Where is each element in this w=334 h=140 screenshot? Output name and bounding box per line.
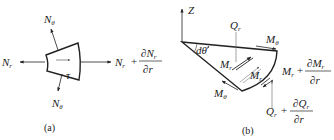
mr-frac-numerator: ∂Mr (307, 57, 325, 71)
ntheta-bottom-arrow (58, 74, 62, 91)
qr-bottom-label: Qr (266, 105, 277, 119)
panel-b: Z dθ Qr Mθ Mr Mr Mθ Mr + ∂Mr ∂r (182, 4, 331, 137)
ntheta-top-label: Nθ (43, 13, 55, 27)
angle-arrow (207, 46, 209, 49)
mr-plus: + (297, 64, 303, 76)
angle-label: dθ (196, 44, 208, 56)
qr-frac-denominator: ∂r (294, 113, 304, 125)
ntheta-top-arrow (51, 29, 58, 50)
nr-left-label: Nr (1, 56, 12, 70)
nr-plus: + (131, 55, 137, 67)
qr-frac-numerator: ∂Qr (293, 97, 309, 111)
shell-element-force-diagram: Nr Nθ Nθ τ Nr + ∂Nr ∂r (a) Z dθ Qr (0, 0, 334, 140)
mtheta-bottom-label: Mθ (213, 87, 227, 101)
tau-label: τ (66, 69, 71, 81)
z-axis-label: Z (188, 4, 195, 16)
ntheta-bottom-label: Nθ (51, 97, 63, 111)
nr-frac-denominator: ∂r (143, 63, 153, 75)
nr-right-label: Nr (114, 56, 125, 70)
mr-inner1-label: Mr (219, 58, 232, 72)
mtheta-top-label: Mθ (265, 33, 279, 47)
panel-a-caption: (a) (44, 122, 55, 134)
nr-frac-numerator: ∂Nr (141, 47, 157, 61)
mr-frac-denominator: ∂r (310, 74, 320, 86)
mtheta-top-arrow (256, 46, 276, 49)
panel-b-caption: (b) (242, 125, 254, 137)
qr-plus: + (281, 104, 287, 116)
mr-inner2-label: Mr (249, 69, 262, 83)
panel-a: Nr Nθ Nθ τ Nr + ∂Nr ∂r (a) (1, 13, 162, 134)
mr-inner1-arrow (232, 57, 251, 70)
mr-right-label: Mr (281, 65, 294, 79)
membrane-element (46, 43, 80, 80)
mr-edge-arrow (263, 80, 273, 87)
qr-top-label: Qr (230, 19, 241, 33)
